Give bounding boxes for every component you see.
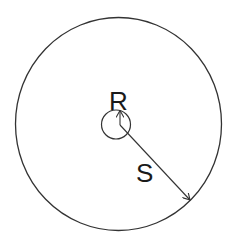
diagram-canvas: R S bbox=[0, 0, 233, 243]
inner-radius-label: R bbox=[109, 86, 128, 116]
outer-radius-arrow bbox=[120, 125, 190, 200]
outer-circle bbox=[16, 18, 222, 231]
outer-radius-label: S bbox=[136, 158, 153, 188]
